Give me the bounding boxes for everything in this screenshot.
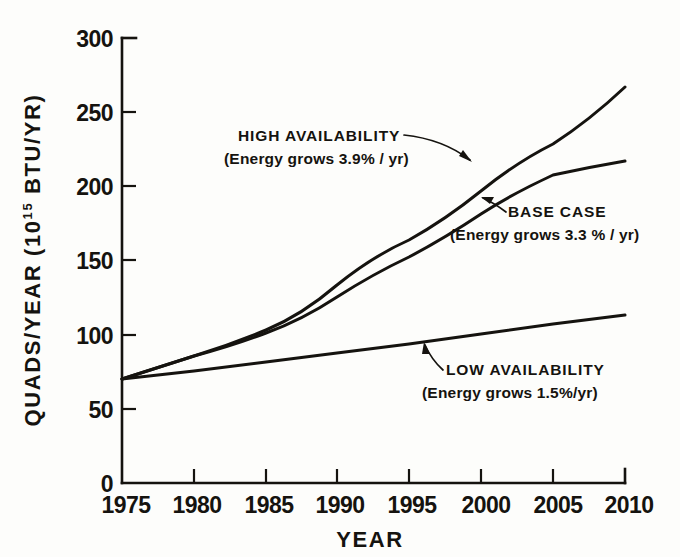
x-tick-label-1980: 1980 bbox=[172, 492, 221, 518]
x-axis-title: YEAR bbox=[336, 527, 404, 552]
annotation-base-title: BASE CASE bbox=[508, 203, 607, 220]
y-axis-title: QUADS/YEAR (1015 BTU/YR) bbox=[20, 94, 45, 427]
annotation-high-availability: HIGH AVAILABILITY (Energy grows 3.9% / y… bbox=[224, 127, 472, 167]
y-tick-label-300: 300 bbox=[76, 26, 113, 52]
y-tick-marks bbox=[122, 112, 136, 409]
curve-base-case bbox=[122, 161, 625, 379]
x-tick-label-2005: 2005 bbox=[533, 492, 583, 518]
x-tick-label-2010: 2010 bbox=[604, 492, 653, 518]
energy-projection-chart: 300 250 200 150 100 50 0 1975 1980 1985 … bbox=[0, 0, 680, 557]
annotation-low-subtitle: (Energy grows 1.5%/yr) bbox=[422, 384, 598, 401]
annotation-high-subtitle: (Energy grows 3.9% / yr) bbox=[224, 150, 409, 167]
y-tick-label-200: 200 bbox=[76, 174, 113, 200]
y-axis-title-prefix: QUADS/YEAR (10 bbox=[20, 219, 45, 426]
x-axis bbox=[122, 469, 625, 483]
x-tick-label-1985: 1985 bbox=[244, 492, 294, 518]
y-tick-label-100: 100 bbox=[76, 323, 113, 349]
y-axis-title-exponent: 15 bbox=[20, 202, 35, 220]
y-tick-label-50: 50 bbox=[88, 397, 113, 423]
leader-arrow-low bbox=[422, 342, 430, 354]
x-tick-label-1990: 1990 bbox=[315, 492, 364, 518]
svg-text:QUADS/YEAR (1015 BTU/YR): QUADS/YEAR (1015 BTU/YR) bbox=[20, 94, 45, 427]
x-tick-labels: 1975 1980 1985 1990 1995 2000 2005 2010 bbox=[101, 492, 653, 518]
annotation-base-subtitle: (Energy grows 3.3 % / yr) bbox=[450, 226, 639, 243]
annotation-low-availability: LOW AVAILABILITY (Energy grows 1.5%/yr) bbox=[422, 342, 605, 401]
y-axis-title-suffix: BTU/YR) bbox=[20, 94, 45, 202]
y-tick-label-150: 150 bbox=[76, 248, 113, 274]
x-tick-marks bbox=[194, 469, 553, 483]
x-tick-label-2000: 2000 bbox=[461, 492, 510, 518]
annotation-high-title: HIGH AVAILABILITY bbox=[238, 127, 400, 144]
annotation-base-case: BASE CASE (Energy grows 3.3 % / yr) bbox=[450, 197, 639, 243]
y-tick-label-250: 250 bbox=[76, 100, 113, 126]
annotation-low-title: LOW AVAILABILITY bbox=[446, 361, 605, 378]
leader-line-low bbox=[425, 345, 443, 370]
y-tick-labels: 300 250 200 150 100 50 0 bbox=[76, 26, 113, 497]
x-tick-label-1975: 1975 bbox=[101, 492, 151, 518]
leader-arrow-high bbox=[459, 150, 472, 162]
x-tick-label-1995: 1995 bbox=[387, 492, 437, 518]
